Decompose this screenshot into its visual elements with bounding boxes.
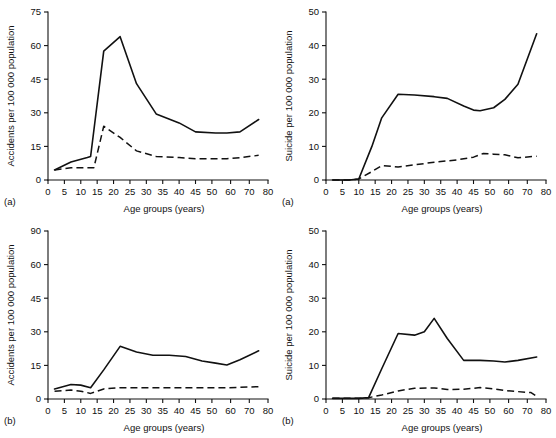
x-tick-label: 40: [452, 405, 463, 416]
panel-bottom-left-accidents: 0153045609005101520253035404550607080Age…: [0, 219, 278, 438]
series-line-dashed-line: [333, 388, 537, 399]
y-tick-label: 15: [30, 141, 41, 152]
x-axis-title: Age groups (years): [124, 422, 205, 433]
x-tick-label: 70: [522, 186, 533, 197]
x-tick-label: 5: [62, 405, 67, 416]
x-tick-label: 25: [125, 186, 136, 197]
x-tick-label: 35: [435, 186, 446, 197]
labels-top-left: 0153045607505101520253035404550607080Age…: [4, 6, 273, 214]
axes-top-right: [322, 12, 546, 184]
panel-letter: (b): [4, 415, 16, 426]
x-tick-label: 20: [386, 405, 397, 416]
y-tick-label: 10: [308, 360, 319, 371]
x-tick-label: 35: [157, 405, 168, 416]
x-tick-label: 60: [503, 186, 514, 197]
x-tick-label: 15: [92, 405, 103, 416]
y-tick-label: 0: [36, 393, 41, 404]
y-axis-title: Suicide per 100 000 population: [283, 250, 294, 381]
x-tick-label: 0: [323, 186, 328, 197]
x-tick-label: 5: [340, 405, 345, 416]
chart-top-left: 0153045607505101520253035404550607080Age…: [0, 0, 278, 219]
y-tick-label: 30: [308, 293, 319, 304]
labels-top-right: 0102030405005101520253035404550607080Age…: [282, 6, 551, 214]
y-tick-label: 0: [36, 174, 41, 185]
y-tick-label: 0: [314, 393, 319, 404]
series-bottom-left: [55, 346, 259, 393]
x-tick-label: 5: [62, 186, 67, 197]
x-tick-label: 70: [244, 405, 255, 416]
axes-bottom-right: [322, 231, 546, 403]
y-axis-title: Accidents per 100 000 population: [5, 244, 16, 385]
x-tick-label: 50: [207, 186, 218, 197]
y-tick-label: 45: [30, 293, 41, 304]
x-tick-label: 45: [190, 186, 201, 197]
x-tick-label: 40: [174, 186, 185, 197]
x-tick-label: 30: [141, 405, 152, 416]
x-tick-label: 15: [92, 186, 103, 197]
x-tick-label: 60: [503, 405, 514, 416]
x-tick-label: 70: [522, 405, 533, 416]
panel-letter: (b): [282, 415, 294, 426]
x-axis-title: Age groups (years): [402, 203, 483, 214]
series-top-right: [333, 34, 537, 180]
y-tick-label: 40: [308, 259, 319, 270]
x-tick-label: 45: [468, 405, 479, 416]
y-tick-label: 30: [30, 107, 41, 118]
x-tick-label: 25: [403, 186, 414, 197]
axes-bottom-left: [44, 231, 268, 403]
y-tick-label: 50: [308, 6, 319, 17]
y-tick-label: 40: [308, 40, 319, 51]
x-tick-label: 0: [323, 405, 328, 416]
x-tick-label: 30: [141, 186, 152, 197]
y-axis-title: Accidents per 100 000 population: [5, 25, 16, 166]
x-tick-label: 80: [263, 186, 274, 197]
y-tick-label: 60: [30, 259, 41, 270]
chart-top-right: 0102030405005101520253035404550607080Age…: [278, 0, 556, 219]
y-tick-label: 15: [30, 360, 41, 371]
y-tick-label: 30: [30, 326, 41, 337]
x-tick-label: 20: [108, 405, 119, 416]
x-tick-label: 80: [541, 405, 552, 416]
x-tick-label: 40: [174, 405, 185, 416]
x-tick-label: 60: [225, 405, 236, 416]
x-tick-label: 5: [340, 186, 345, 197]
x-axis-title: Age groups (years): [402, 422, 483, 433]
x-tick-label: 15: [370, 186, 381, 197]
x-tick-label: 0: [45, 186, 50, 197]
panel-letter: (a): [4, 196, 16, 207]
panel-top-left-accidents: 0153045607505101520253035404550607080Age…: [0, 0, 278, 219]
figure-accidents-suicide-by-age: 0153045607505101520253035404550607080Age…: [0, 0, 556, 438]
x-tick-label: 30: [419, 186, 430, 197]
x-tick-label: 40: [452, 186, 463, 197]
panel-letter: (a): [282, 196, 294, 207]
x-tick-label: 0: [45, 405, 50, 416]
y-tick-label: 75: [30, 6, 41, 17]
y-axis-title: Suicide per 100 000 population: [283, 31, 294, 162]
y-tick-label: 20: [308, 107, 319, 118]
x-tick-label: 70: [244, 186, 255, 197]
y-tick-label: 30: [308, 74, 319, 85]
y-tick-label: 20: [308, 326, 319, 337]
x-tick-label: 10: [353, 405, 364, 416]
y-tick-label: 10: [308, 141, 319, 152]
chart-bottom-left: 0153045609005101520253035404550607080Age…: [0, 219, 278, 438]
x-tick-label: 35: [157, 186, 168, 197]
y-tick-label: 50: [308, 225, 319, 236]
series-line-solid-line: [333, 318, 537, 398]
y-tick-label: 90: [30, 225, 41, 236]
panel-bottom-right-suicide: 0102030405005101520253035404550607080Age…: [278, 219, 556, 438]
x-tick-label: 50: [207, 405, 218, 416]
x-tick-label: 25: [403, 405, 414, 416]
x-tick-label: 50: [485, 405, 496, 416]
x-tick-label: 45: [190, 405, 201, 416]
labels-bottom-left: 0153045609005101520253035404550607080Age…: [4, 225, 273, 433]
x-tick-label: 20: [386, 186, 397, 197]
x-tick-label: 50: [485, 186, 496, 197]
x-tick-label: 45: [468, 186, 479, 197]
y-tick-label: 0: [314, 174, 319, 185]
x-tick-label: 20: [108, 186, 119, 197]
series-bottom-right: [333, 318, 537, 398]
panel-top-right-suicide: 0102030405005101520253035404550607080Age…: [278, 0, 556, 219]
chart-bottom-right: 0102030405005101520253035404550607080Age…: [278, 219, 556, 438]
x-tick-label: 10: [353, 186, 364, 197]
